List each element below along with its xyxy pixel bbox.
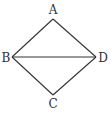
vertex-label-b: B (2, 51, 11, 65)
edge-da (53, 19, 96, 57)
quadrilateral-diagram: A B C D (0, 0, 111, 116)
edge-bc (12, 57, 53, 95)
edge-ab (12, 19, 53, 57)
vertex-label-a: A (48, 3, 58, 17)
edges (12, 19, 96, 95)
edge-cd (53, 57, 96, 95)
vertex-label-d: D (98, 51, 108, 65)
vertex-label-c: C (48, 97, 57, 111)
